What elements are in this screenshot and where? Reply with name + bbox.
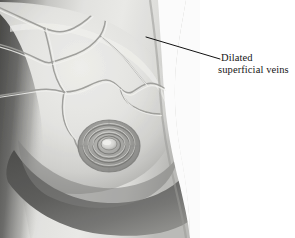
figure-root: Dilated superficial veins <box>0 0 295 238</box>
photo-grain-veil <box>0 0 200 238</box>
breast-photograph-canvas <box>0 0 200 238</box>
annotation-label-line-2: superficial veins <box>218 64 295 76</box>
annotation-label-dilated-superficial-veins: Dilated superficial veins <box>221 52 295 75</box>
breast-photograph <box>0 0 200 238</box>
annotation-label-line-1: Dilated <box>221 52 295 64</box>
